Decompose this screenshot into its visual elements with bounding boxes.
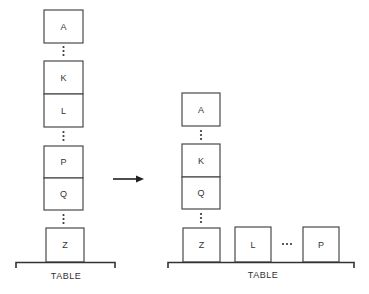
block-label: A (198, 105, 204, 115)
vertical-ellipsis-icon (200, 213, 202, 223)
horizontal-ellipsis-icon (282, 243, 292, 245)
table-label: TABLE (51, 271, 81, 281)
block-label: Z (62, 240, 68, 250)
block-label: A (60, 22, 66, 32)
block-label: Q (60, 189, 67, 199)
block-label: Z (199, 240, 205, 250)
block-label: P (318, 240, 324, 250)
block-label: L (61, 106, 66, 116)
blocks-world-diagram: A K L P Q Z TABLE A K (0, 0, 369, 294)
final-state: A K Q Z L P TABLE (168, 93, 354, 280)
block-label: L (250, 240, 255, 250)
transition-arrow-icon (113, 176, 144, 183)
table-surface (16, 263, 115, 269)
table-label: TABLE (248, 270, 278, 280)
block-label: Q (197, 188, 204, 198)
vertical-ellipsis-icon (62, 214, 64, 224)
block-label: K (198, 156, 204, 166)
block-label: K (60, 73, 66, 83)
vertical-ellipsis-icon (62, 46, 64, 56)
table-surface (168, 263, 354, 269)
block-label: P (60, 157, 66, 167)
initial-state: A K L P Q Z TABLE (16, 10, 115, 281)
vertical-ellipsis-icon (200, 130, 202, 140)
vertical-ellipsis-icon (62, 131, 64, 141)
